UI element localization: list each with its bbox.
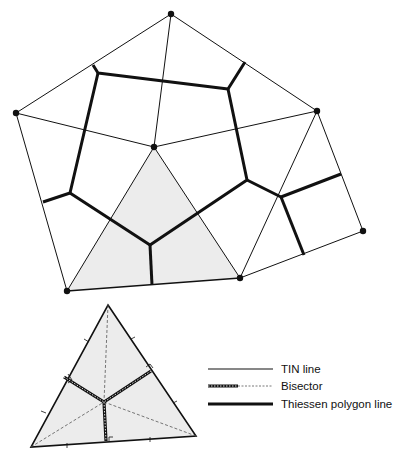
inset-diagram <box>31 305 196 448</box>
highlighted-triangle <box>67 147 240 291</box>
legend-label-bisector: Bisector <box>281 379 323 393</box>
legend-label-tin: TIN line <box>281 362 321 376</box>
legend <box>208 369 273 404</box>
tin-thiessen-diagram <box>0 0 403 458</box>
legend-label-thiessen: Thiessen polygon line <box>281 397 392 411</box>
inset-triangle <box>31 305 196 447</box>
main-diagram <box>13 11 366 294</box>
